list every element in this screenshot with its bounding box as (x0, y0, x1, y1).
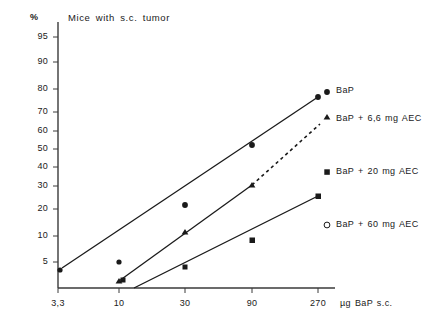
legend-marker-filled-triangle (324, 114, 331, 120)
y-axis-unit-label: % (30, 13, 38, 22)
legend-marker-filled-square (324, 169, 330, 175)
legend-marker-open-circle (324, 222, 330, 228)
y-tick-label: 60 (22, 126, 48, 135)
x-tick-label: 90 (232, 299, 272, 308)
y-tick-label: 30 (22, 181, 48, 190)
x-axis-title: µg BaP s.c. (340, 299, 392, 308)
figure-container: % Mice with s.c. tumor 95 90 80 70 60 50… (0, 0, 433, 320)
y-tick-label: 80 (22, 84, 48, 93)
y-axis-ticks (53, 37, 58, 262)
series-bap-6-6-aec (116, 124, 320, 284)
data-point (316, 194, 322, 200)
y-tick-label: 95 (22, 32, 48, 41)
data-point (183, 265, 188, 270)
y-tick-label: 10 (22, 231, 48, 240)
data-point (57, 267, 62, 272)
x-tick-label: 10 (99, 299, 139, 308)
y-tick-label: 50 (22, 144, 48, 153)
series-bap-line (62, 97, 318, 268)
data-point (250, 238, 256, 244)
y-tick-label: 90 (22, 57, 48, 66)
data-point (182, 202, 188, 208)
legend-label: BaP + 60 mg AEC (336, 220, 419, 229)
series-bap (57, 94, 321, 273)
x-tick-label: 30 (165, 299, 205, 308)
data-point (249, 182, 256, 188)
y-tick-label: 5 (22, 257, 48, 266)
x-axis-ticks (58, 288, 318, 293)
y-tick-label: 20 (22, 204, 48, 213)
data-point (249, 142, 255, 148)
data-point (121, 278, 126, 283)
legend-marker-filled-circle (324, 89, 330, 95)
y-tick-label: 40 (22, 162, 48, 171)
series-bap-20-aec-line (134, 196, 318, 288)
legend-label: BaP (336, 86, 354, 95)
data-point (315, 94, 321, 100)
series-bap-6-6-aec-line-dashed (252, 124, 320, 185)
legend-markers (324, 89, 331, 228)
chart-title: Mice with s.c. tumor (68, 13, 170, 23)
legend-label: BaP + 6,6 mg AEC (336, 114, 422, 123)
x-tick-label: 3,3 (38, 299, 78, 308)
y-tick-label: 70 (22, 107, 48, 116)
x-tick-label: 270 (298, 299, 338, 308)
data-point (116, 259, 121, 264)
legend-label: BaP + 20 mg AEC (336, 167, 419, 176)
plot-area (0, 0, 433, 320)
